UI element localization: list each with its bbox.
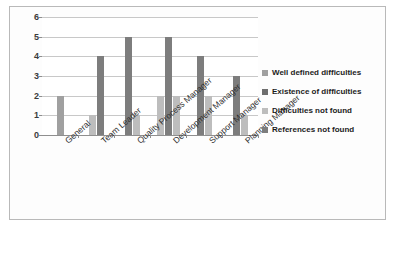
y-axis-tick-label: 1	[13, 111, 39, 120]
y-axis-tick-mark	[39, 76, 42, 77]
y-axis-tick-label: 5	[13, 33, 39, 42]
legend-swatch-icon	[262, 127, 268, 133]
x-axis-category-labels: GeneralTeam LeaderQuality Process Manage…	[42, 138, 272, 216]
x-axis-tick-mark	[78, 135, 79, 138]
x-axis-tick-mark	[186, 135, 187, 138]
y-axis-tick-mark	[39, 135, 42, 136]
x-axis-tick-mark	[114, 135, 115, 138]
legend-item[interactable]: Difficulties not found	[262, 103, 384, 118]
legend-swatch-icon	[262, 70, 268, 76]
bar-groups	[42, 17, 258, 135]
legend-label: Difficulties not found	[272, 106, 352, 115]
legend-label: References not found	[272, 125, 354, 134]
y-axis-tick-mark	[39, 115, 42, 116]
y-axis-tick-label: 6	[13, 13, 39, 22]
legend-label: Well defined difficulties	[272, 68, 361, 77]
y-axis-tick-mark	[39, 17, 42, 18]
y-axis-tick-label: 0	[13, 131, 39, 140]
chart-figure: 0123456 GeneralTeam LeaderQuality Proces…	[9, 6, 386, 220]
bar-group	[78, 17, 114, 135]
y-axis-tick-mark	[39, 37, 42, 38]
y-axis-tick-label: 2	[13, 92, 39, 101]
y-axis-tick-label: 3	[13, 72, 39, 81]
chart-legend: Well defined difficultiesExistence of di…	[262, 65, 384, 141]
legend-item[interactable]: Existence of difficulties	[262, 84, 384, 99]
bar	[57, 96, 64, 135]
bar	[97, 56, 104, 135]
legend-item[interactable]: Well defined difficulties	[262, 65, 384, 80]
x-axis-tick-mark	[222, 135, 223, 138]
legend-swatch-icon	[262, 89, 268, 95]
y-axis-tick-mark	[39, 56, 42, 57]
x-axis-tick-mark	[258, 135, 259, 138]
legend-item[interactable]: References not found	[262, 122, 384, 137]
y-axis-tick-mark	[39, 96, 42, 97]
bar-group	[42, 17, 78, 135]
legend-swatch-icon	[262, 108, 268, 114]
plot-area	[42, 17, 258, 135]
x-axis-tick-mark	[150, 135, 151, 138]
y-axis-labels: 0123456	[10, 17, 39, 136]
y-axis-tick-label: 4	[13, 52, 39, 61]
legend-label: Existence of difficulties	[272, 87, 361, 96]
